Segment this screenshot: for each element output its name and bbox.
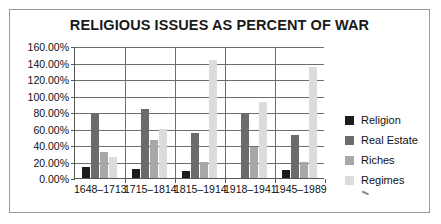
category-separator xyxy=(125,47,126,178)
y-axis-tick-label: 120.00% xyxy=(28,74,69,86)
y-tick-mark xyxy=(71,113,75,114)
legend-item-label: Regimes xyxy=(361,174,404,186)
plot-axes xyxy=(74,47,324,179)
y-tick-mark xyxy=(71,146,75,147)
bar-regimes xyxy=(309,67,317,178)
bar-religion xyxy=(282,170,290,178)
bar-real-estate xyxy=(191,133,199,178)
y-axis-tick-label: 140.00% xyxy=(28,58,69,70)
legend-swatch-icon xyxy=(345,176,354,185)
y-axis-tick-label: 160.00% xyxy=(28,41,69,53)
y-tick-mark xyxy=(71,64,75,65)
category-separator xyxy=(175,47,176,178)
gridline xyxy=(75,97,324,98)
chart-title: RELIGIOUS ISSUES AS PERCENT OF WAR xyxy=(10,17,429,33)
bar-riches xyxy=(250,147,258,178)
y-tick-mark xyxy=(71,179,75,180)
gridline xyxy=(75,130,324,131)
y-axis-tick-label: 100.00% xyxy=(28,91,69,103)
y-axis-tick-label: 20.00% xyxy=(33,157,69,169)
x-axis-category-label: 1945–1989 xyxy=(274,183,324,195)
category-separator xyxy=(225,47,226,178)
legend-item: Real Estate xyxy=(345,130,435,150)
x-axis-labels: 1648–17131715–18141815–19141918–19411945… xyxy=(74,183,324,199)
y-axis-labels: 0.00%20.00%40.00%60.00%80.00%100.00%120.… xyxy=(10,47,69,179)
y-axis-tick-label: 80.00% xyxy=(33,107,69,119)
gridline xyxy=(75,47,324,48)
screenshot-root: RELIGIOUS ISSUES AS PERCENT OF WAR 0.00%… xyxy=(0,0,441,224)
chart-frame: RELIGIOUS ISSUES AS PERCENT OF WAR 0.00%… xyxy=(9,9,430,213)
bar-real-estate xyxy=(141,109,149,178)
gridline xyxy=(75,64,324,65)
bar-religion xyxy=(182,171,190,178)
x-axis-category-label: 1918–1941 xyxy=(224,183,274,195)
legend-swatch-icon xyxy=(345,136,354,145)
x-axis-category-label: 1715–1814 xyxy=(124,183,174,195)
bar-regimes xyxy=(209,60,217,178)
bar-regimes xyxy=(109,157,117,178)
x-axis-category-label: 1815–1914 xyxy=(174,183,224,195)
y-tick-mark xyxy=(71,80,75,81)
legend-swatch-icon xyxy=(345,156,354,165)
legend-item-label: Riches xyxy=(361,154,395,166)
bar-real-estate xyxy=(241,114,249,178)
plot-area xyxy=(74,47,324,179)
gridline xyxy=(75,80,324,81)
bar-regimes xyxy=(159,129,167,179)
category-separator xyxy=(275,47,276,178)
gridline xyxy=(75,113,324,114)
y-axis-tick-label: 60.00% xyxy=(33,124,69,136)
chart-legend: ReligionReal EstateRichesRegimes xyxy=(345,110,435,190)
bar-riches xyxy=(300,162,308,179)
legend-item-label: Real Estate xyxy=(361,134,418,146)
bar-real-estate xyxy=(91,114,99,178)
y-axis-tick-label: 40.00% xyxy=(33,140,69,152)
y-tick-mark xyxy=(71,130,75,131)
bar-religion xyxy=(82,167,90,178)
y-tick-mark xyxy=(71,163,75,164)
legend-item-label: Religion xyxy=(361,114,401,126)
legend-item: Religion xyxy=(345,110,435,130)
x-axis-category-label: 1648–1713 xyxy=(74,183,124,195)
scan-artifact-mark xyxy=(362,191,369,195)
bar-religion xyxy=(132,169,140,178)
legend-item: Regimes xyxy=(345,170,435,190)
legend-swatch-icon xyxy=(345,116,354,125)
y-axis-tick-label: 0.00% xyxy=(39,173,69,185)
bar-riches xyxy=(100,152,108,178)
gridline xyxy=(75,146,324,147)
bar-regimes xyxy=(259,102,267,178)
legend-item: Riches xyxy=(345,150,435,170)
y-tick-mark xyxy=(71,97,75,98)
y-tick-mark xyxy=(71,47,75,48)
bar-real-estate xyxy=(291,135,299,178)
bar-riches xyxy=(200,162,208,178)
bar-riches xyxy=(150,140,158,178)
